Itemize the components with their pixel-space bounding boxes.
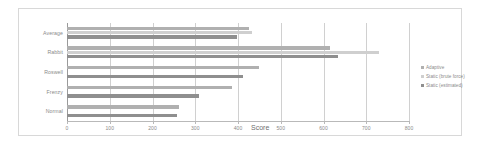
bar bbox=[67, 105, 179, 108]
bar-group: Roswell bbox=[67, 62, 409, 82]
legend-swatch-icon bbox=[421, 84, 424, 87]
bar bbox=[67, 31, 252, 34]
x-tick-700 bbox=[366, 121, 367, 124]
x-tick-label-200: 200 bbox=[148, 125, 157, 131]
legend-item: Adaptive bbox=[421, 63, 480, 72]
x-tick-300 bbox=[195, 121, 196, 124]
category-label: Roswell bbox=[44, 69, 63, 75]
bar-group: Frenzy bbox=[67, 82, 409, 102]
x-tick-500 bbox=[281, 121, 282, 124]
bar bbox=[67, 27, 249, 30]
gridline-x-800 bbox=[409, 23, 410, 121]
x-tick-200 bbox=[153, 121, 154, 124]
bar bbox=[67, 35, 237, 38]
x-tick-800 bbox=[409, 121, 410, 124]
bar bbox=[67, 94, 199, 97]
bar bbox=[67, 86, 232, 89]
bar bbox=[67, 66, 259, 69]
x-tick-label-700: 700 bbox=[362, 125, 371, 131]
plot-area: AverageRabbitRoswellFrenzyNormal bbox=[67, 23, 409, 121]
x-tick-400 bbox=[238, 121, 239, 124]
chart-figure: AverageRabbitRoswellFrenzyNormal Score A… bbox=[0, 0, 480, 145]
bar bbox=[67, 51, 379, 54]
legend-item: Static (estimated) bbox=[421, 81, 480, 90]
chart-legend: AdaptiveStatic (brute force)Static (esti… bbox=[421, 63, 480, 90]
x-tick-600 bbox=[324, 121, 325, 124]
legend-label: Static (estimated) bbox=[426, 83, 463, 88]
category-label: Rabbit bbox=[47, 49, 63, 55]
x-axis-title: Score bbox=[251, 124, 269, 131]
category-label: Normal bbox=[46, 108, 63, 114]
x-tick-label-400: 400 bbox=[234, 125, 243, 131]
bar bbox=[67, 75, 243, 78]
x-tick-0 bbox=[67, 121, 68, 124]
x-tick-label-300: 300 bbox=[191, 125, 200, 131]
legend-item: Static (brute force) bbox=[421, 72, 480, 81]
x-tick-label-0: 0 bbox=[66, 125, 69, 131]
bar-group: Normal bbox=[67, 101, 409, 121]
x-tick-label-100: 100 bbox=[105, 125, 114, 131]
x-tick-100 bbox=[110, 121, 111, 124]
legend-label: Adaptive bbox=[426, 65, 444, 70]
bar-group: Rabbit bbox=[67, 43, 409, 63]
x-tick-label-500: 500 bbox=[276, 125, 285, 131]
category-label: Average bbox=[43, 30, 63, 36]
bar-group: Average bbox=[67, 23, 409, 43]
bar bbox=[67, 55, 338, 58]
legend-swatch-icon bbox=[421, 75, 424, 78]
bar bbox=[67, 46, 330, 49]
legend-swatch-icon bbox=[421, 66, 424, 69]
bar bbox=[67, 114, 177, 117]
legend-label: Static (brute force) bbox=[426, 74, 465, 79]
x-tick-label-600: 600 bbox=[319, 125, 328, 131]
x-tick-label-800: 800 bbox=[405, 125, 414, 131]
chart-frame: AverageRabbitRoswellFrenzyNormal Score A… bbox=[18, 8, 462, 136]
category-label: Frenzy bbox=[47, 89, 63, 95]
